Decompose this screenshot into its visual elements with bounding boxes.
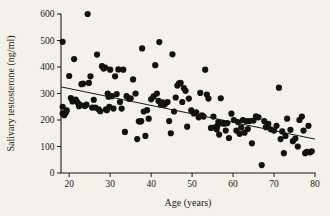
- scatter-point: [238, 124, 244, 130]
- scatter-point: [276, 85, 282, 91]
- scatter-point: [94, 51, 100, 57]
- scatter-point: [87, 73, 93, 79]
- scatter-point: [202, 67, 208, 73]
- scatter-point: [292, 135, 298, 141]
- scatter-point: [259, 162, 265, 168]
- scatter-point: [164, 99, 170, 105]
- scatter-point: [226, 135, 232, 141]
- y-tick-label: 400: [40, 62, 55, 72]
- scatter-point: [156, 39, 162, 45]
- scatter-point: [184, 124, 190, 130]
- scatter-point: [166, 118, 172, 124]
- scatter-point: [142, 133, 148, 139]
- scatter-point: [284, 116, 290, 122]
- y-axis-title: Salivary testosterone (ng/ml): [5, 35, 17, 151]
- scatter-point: [144, 107, 150, 113]
- scatter-point: [273, 123, 279, 129]
- scatter-point: [218, 95, 224, 101]
- scatter-point: [119, 106, 125, 112]
- scatter-point: [80, 81, 86, 87]
- scatter-point: [107, 67, 113, 73]
- scatter-point: [122, 129, 128, 135]
- scatter-point: [91, 97, 97, 103]
- scatter-point: [287, 127, 293, 133]
- scatter-point: [169, 51, 175, 57]
- y-tick-label: 100: [40, 142, 55, 152]
- x-tick-label: 20: [64, 179, 74, 189]
- scatter-point: [138, 118, 144, 124]
- figure-container: 010020030040050060020304050607080Age (ye…: [0, 0, 330, 216]
- y-tick-label: 0: [50, 168, 55, 178]
- scatter-point: [245, 126, 251, 132]
- scatter-point: [114, 91, 120, 97]
- scatter-point: [295, 143, 301, 149]
- x-tick-label: 50: [187, 179, 197, 189]
- scatter-point: [265, 121, 271, 127]
- scatter-point: [132, 90, 138, 96]
- scatter-point: [228, 111, 234, 117]
- x-tick-label: 30: [105, 179, 115, 189]
- scatter-point: [168, 130, 174, 136]
- scatter-point: [71, 56, 77, 62]
- scatter-point: [97, 108, 103, 114]
- scatter-plot: 010020030040050060020304050607080Age (ye…: [0, 0, 330, 216]
- scatter-point: [139, 45, 145, 51]
- scatter-point: [178, 80, 184, 86]
- scatter-point: [110, 106, 116, 112]
- y-tick-label: 300: [40, 89, 55, 99]
- scatter-point: [205, 95, 211, 101]
- scatter-point: [197, 90, 203, 96]
- x-tick-label: 40: [146, 179, 156, 189]
- y-tick-label: 600: [40, 9, 55, 19]
- scatter-point: [305, 123, 311, 129]
- y-tick-label: 200: [40, 115, 55, 125]
- scatter-point: [179, 99, 185, 105]
- scatter-point: [130, 76, 136, 82]
- y-tick-label: 500: [40, 36, 55, 46]
- scatter-point: [223, 128, 229, 134]
- scatter-point: [86, 80, 92, 86]
- scatter-point: [309, 148, 315, 154]
- x-tick-label: 80: [310, 179, 320, 189]
- scatter-point: [120, 67, 126, 73]
- scatter-point: [64, 107, 70, 113]
- scatter-point: [182, 88, 188, 94]
- scatter-point: [173, 94, 179, 100]
- scatter-point: [66, 73, 72, 79]
- scatter-point: [152, 62, 158, 68]
- x-tick-label: 70: [269, 179, 279, 189]
- scatter-point: [85, 11, 91, 17]
- scatter-point: [186, 95, 192, 101]
- scatter-point: [255, 114, 261, 120]
- scatter-point: [281, 150, 287, 156]
- scatter-point: [249, 140, 255, 146]
- scatter-point: [134, 136, 140, 142]
- scatter-point: [146, 116, 152, 122]
- x-tick-label: 60: [228, 179, 238, 189]
- scatter-point: [300, 128, 306, 134]
- scatter-point: [112, 73, 118, 79]
- scatter-point: [83, 102, 89, 108]
- scatter-point: [216, 131, 222, 137]
- scatter-point: [154, 90, 160, 96]
- scatter-point: [299, 113, 305, 119]
- x-axis-title: Age (years): [165, 197, 212, 209]
- scatter-point: [60, 39, 66, 45]
